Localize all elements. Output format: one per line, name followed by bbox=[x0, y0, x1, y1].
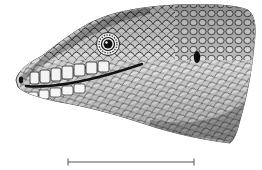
nostril bbox=[19, 77, 23, 84]
eye bbox=[97, 33, 120, 56]
lizard-head-illustration bbox=[0, 0, 262, 170]
scale-bar bbox=[68, 159, 194, 166]
head bbox=[0, 0, 262, 150]
ear-opening bbox=[194, 51, 200, 63]
